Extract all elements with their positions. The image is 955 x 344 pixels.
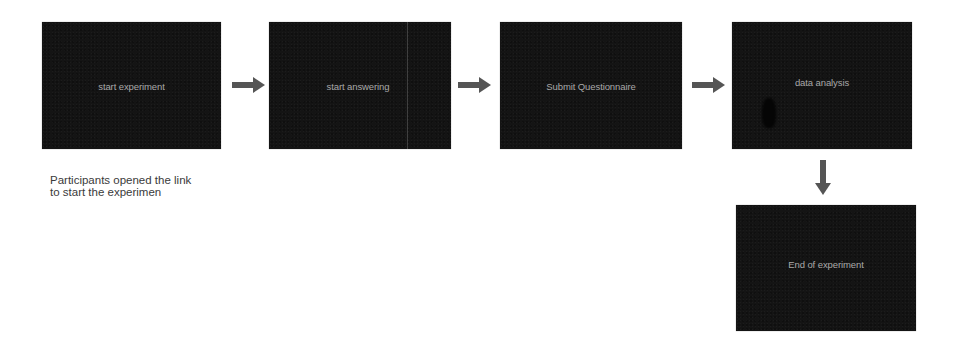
step-box-submit-questionnaire: Submit Questionnaire — [500, 22, 682, 149]
step-box-start-experiment: start experiment — [42, 22, 221, 149]
caption-line-1: Participants opened the link — [50, 175, 191, 187]
step-label: data analysis — [732, 77, 912, 88]
arrow-down-icon — [815, 160, 831, 195]
step-label: start experiment — [42, 81, 221, 92]
caption-line-2: to start the experimen — [50, 187, 191, 199]
step-label: start answering — [265, 81, 451, 92]
step-box-start-answering: start answering — [269, 22, 451, 149]
step-label: Submit Questionnaire — [500, 81, 682, 92]
step-box-data-analysis: data analysis — [732, 22, 912, 149]
step-1-caption: Participants opened the link to start th… — [50, 175, 191, 198]
step-label: End of experiment — [736, 259, 916, 270]
ink-artifact — [762, 98, 776, 128]
arrow-right-icon — [458, 77, 491, 93]
step-box-end-of-experiment: End of experiment — [736, 205, 916, 331]
arrow-right-icon — [232, 77, 265, 93]
arrow-right-icon — [692, 77, 725, 93]
